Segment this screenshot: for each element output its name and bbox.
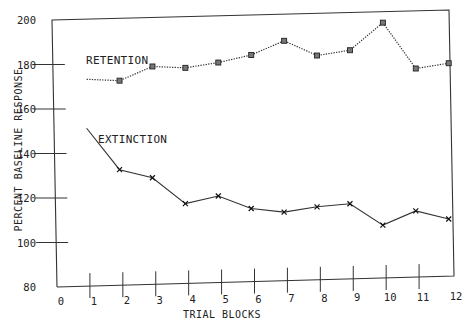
square-marker [347,48,352,53]
square-marker [117,78,122,83]
x-tick-label: 3 [157,294,163,306]
extinction-label: EXTINCTION [98,133,167,146]
x-axis-title: TRIAL BLOCKS [183,309,261,320]
x-tick-label: 6 [255,293,261,305]
y-tick-label: 200 [17,14,36,26]
square-marker [216,60,221,65]
x-tick-label: 1 [91,295,97,307]
square-marker [183,65,188,70]
square-marker [413,66,418,71]
y-tick-label: 100 [17,237,36,249]
plot-frame [52,10,454,287]
x-tick-label: 12 [450,290,463,302]
frame-line [52,10,454,287]
x-tick-label: 9 [354,291,360,303]
series-group [87,20,452,227]
square-marker [446,61,451,66]
retention-series [87,20,452,83]
square-marker [380,20,385,25]
x-marker [380,223,385,228]
x-tick-label: 11 [417,291,430,303]
x-tick-label: 4 [190,293,196,305]
x-tick-label: 5 [222,293,228,305]
retention-line [87,23,449,81]
x-tick-label: 0 [58,295,64,307]
square-marker [249,53,254,58]
y-axis-title: PERCENT BASELINE RESPONSE [13,68,24,231]
y-axis: 80100120140160180200 [17,14,68,293]
x-tick-label: 2 [124,294,130,306]
retention-label: RETENTION [86,54,148,67]
square-marker [282,38,287,43]
y-tick-label: 80 [23,281,36,293]
square-marker [150,64,155,69]
x-tick-label: 10 [384,291,397,303]
x-tick-label: 8 [321,292,327,304]
square-marker [315,53,320,58]
line-chart: 80100120140160180200 0123456789101112 RE… [0,0,471,326]
x-tick-label: 7 [288,292,294,304]
